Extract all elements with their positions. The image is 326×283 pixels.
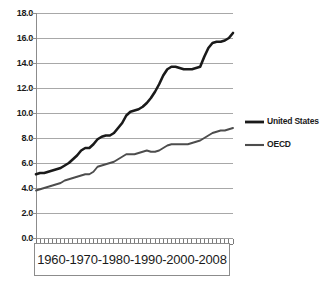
legend-item-united-states[interactable]: United States <box>245 117 319 126</box>
legend-label-oecd: OECD <box>267 140 291 149</box>
legend-item-oecd[interactable]: OECD <box>245 140 291 149</box>
x-axis-label-box: 1960-1970-1980-1990-2000-2008 <box>34 243 230 276</box>
line-chart: 18.016.014.012.010.08.06.04.02.00.0 Unit… <box>0 0 326 283</box>
x-axis-label-text: 1960-1970-1980-1990-2000-2008 <box>37 252 226 267</box>
gridlines <box>32 13 233 238</box>
legend-label-united-states: United States <box>267 117 319 126</box>
data-series-group <box>36 33 233 191</box>
legend-swatch-oecd <box>245 141 264 149</box>
legend-swatch-united-states <box>245 118 264 126</box>
